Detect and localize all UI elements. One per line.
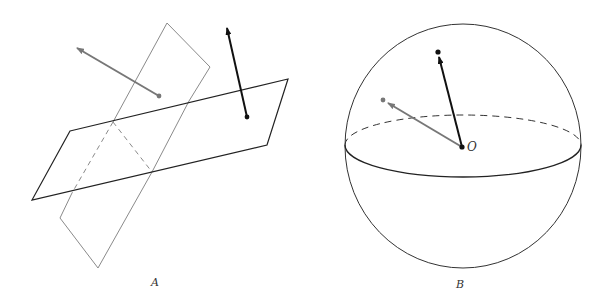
figure: A B O xyxy=(0,0,608,301)
origin-label: O xyxy=(467,140,477,154)
black-vector-b xyxy=(435,49,462,147)
diagram-svg xyxy=(0,0,608,301)
panel-b xyxy=(345,24,581,268)
equator-back xyxy=(345,115,581,145)
panel-a-label: A xyxy=(151,276,159,289)
gray-vector-b xyxy=(381,98,462,147)
black-vector-a xyxy=(227,28,249,119)
equator-front xyxy=(345,145,581,177)
gray-plane xyxy=(60,23,210,268)
intersection-line xyxy=(113,122,152,172)
panel-a xyxy=(32,23,288,268)
origin-point xyxy=(459,144,464,149)
panel-b-label: B xyxy=(456,278,464,291)
